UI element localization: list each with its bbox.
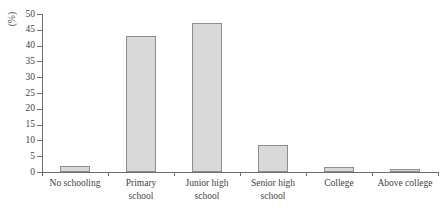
y-tick-label: 50 [26, 8, 36, 20]
bar [324, 167, 354, 172]
bar [258, 145, 288, 172]
y-axis-line [42, 14, 43, 173]
bar [390, 169, 420, 172]
y-tick: 50 [37, 14, 42, 15]
y-tick-label: 40 [26, 39, 36, 51]
y-tick: 5 [37, 156, 42, 157]
y-tick: 45 [37, 30, 42, 31]
x-tick [372, 172, 373, 176]
x-tick [306, 172, 307, 176]
y-tick-label: 35 [26, 55, 36, 67]
y-tick-label: 45 [26, 23, 36, 35]
y-tick: 10 [37, 140, 42, 141]
bar [192, 23, 222, 172]
x-tick [240, 172, 241, 176]
x-tick [108, 172, 109, 176]
y-tick-label: 20 [26, 102, 36, 114]
y-tick: 25 [37, 93, 42, 94]
x-tick [174, 172, 175, 176]
y-tick-label: 0 [30, 166, 35, 178]
y-tick-label: 15 [26, 118, 36, 130]
y-tick-label: 25 [26, 87, 36, 99]
y-tick: 20 [37, 109, 42, 110]
y-tick: 30 [37, 77, 42, 78]
bar-chart: (%) 05101520253035404550 No schoolingPri… [0, 0, 446, 215]
y-axis-label: (%) [7, 0, 17, 39]
y-tick: 35 [37, 61, 42, 62]
y-tick-label: 5 [30, 150, 35, 162]
plot-area: 05101520253035404550 [42, 14, 438, 173]
y-tick-label: 10 [26, 134, 36, 146]
y-tick: 15 [37, 125, 42, 126]
x-tick [42, 172, 43, 176]
bar [126, 36, 156, 172]
y-tick-label: 30 [26, 71, 36, 83]
y-tick: 40 [37, 46, 42, 47]
x-category-label: Above college [366, 177, 444, 190]
bar [60, 166, 90, 172]
x-tick [438, 172, 439, 176]
